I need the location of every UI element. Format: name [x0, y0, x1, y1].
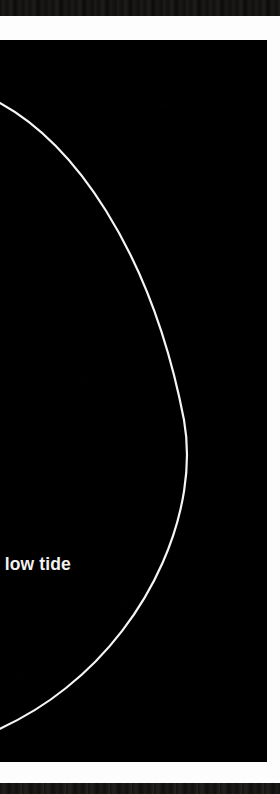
- figure-panel: r low tide: [0, 40, 267, 762]
- cropped-page-edge-top: [0, 0, 280, 16]
- page-gutter-top: [0, 16, 280, 40]
- page-margin-right: [267, 40, 280, 762]
- page-gutter-bottom: [0, 762, 280, 783]
- tide-curve-caption: r low tide: [0, 552, 71, 576]
- page-root: r low tide: [0, 0, 280, 794]
- tide-curve-arc: [0, 40, 267, 762]
- cropped-page-edge-bottom: [0, 783, 280, 794]
